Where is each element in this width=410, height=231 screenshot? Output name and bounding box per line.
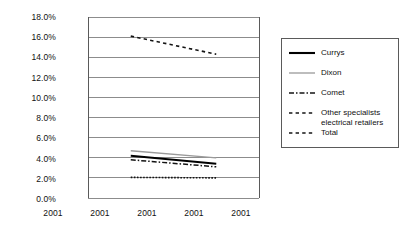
x-tick-label: 2001 (33, 208, 73, 218)
legend-item-total: Total (289, 128, 338, 138)
line-chart: 18.0% 16.0% 14.0% 12.0% 10.0% 8.0% 6.0% … (0, 0, 410, 231)
legend-item-other-specialists: Other specialists electrical retailers (289, 108, 383, 127)
x-tick-label: 2001 (221, 208, 261, 218)
legend-swatch-dashed-total-icon (289, 128, 315, 138)
legend-swatch-dashdot-icon (289, 88, 315, 98)
legend-label: Dixon (321, 68, 341, 78)
legend-label-line2: electrical retailers (321, 118, 383, 128)
chart-legend: Currys Dixon Comet Other specialists ele… (281, 38, 399, 148)
legend-item-comet: Comet (289, 88, 345, 98)
legend-label: Comet (321, 88, 345, 98)
legend-swatch-solid-gray-icon (289, 68, 315, 78)
legend-item-dixon: Dixon (289, 68, 341, 78)
legend-item-currys: Currys (289, 48, 345, 58)
legend-swatch-solid-black-icon (289, 48, 315, 58)
x-tick-label: 2001 (127, 208, 167, 218)
legend-swatch-dashed-icon (289, 108, 315, 118)
legend-label: Total (321, 128, 338, 138)
legend-label: Currys (321, 48, 345, 58)
x-tick-label: 2001 (80, 208, 120, 218)
series-line (131, 36, 217, 54)
x-tick-label: 2001 (174, 208, 214, 218)
legend-label: Other specialists (321, 108, 383, 118)
